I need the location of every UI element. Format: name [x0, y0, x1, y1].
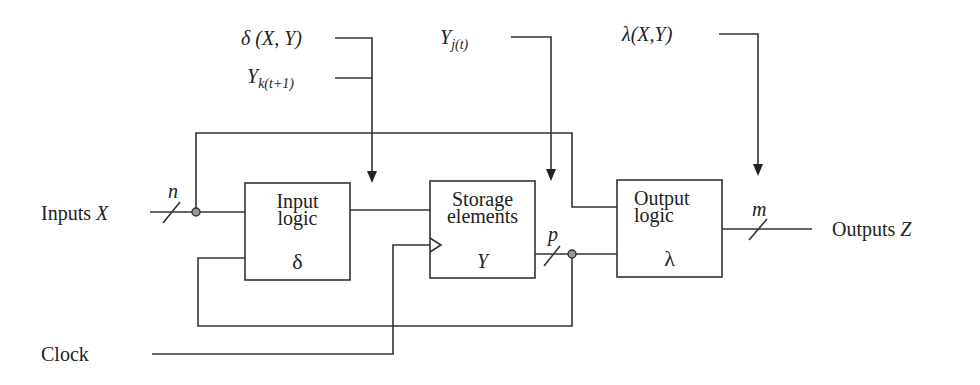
input-logic-title: Input logic — [245, 193, 350, 227]
input-junction-dot — [192, 208, 200, 216]
output-func-leader — [719, 34, 758, 165]
state-bus-width: p — [548, 224, 558, 244]
output-func-label: λ(X,Y) — [622, 24, 672, 44]
outputs-label: Outputs Z — [832, 219, 911, 239]
output-bus-width: m — [752, 199, 766, 219]
next-state-var-label: Yk(t+1) — [247, 66, 294, 94]
storage-elements-symbol: Y — [430, 253, 535, 270]
inputs-var: X — [96, 202, 108, 224]
inputs-label: Inputs X — [41, 203, 108, 223]
arrowhead-down-icon — [753, 164, 763, 176]
state-bus-width-slash — [544, 246, 560, 266]
present-state-leader — [511, 37, 551, 170]
input-bus-width: n — [168, 181, 178, 201]
output-logic-symbol: λ — [617, 250, 722, 267]
next-state-func-leader — [335, 38, 372, 172]
state-junction-dot — [568, 250, 576, 258]
output-logic-title: Output logic — [617, 190, 717, 224]
arrowhead-down-icon — [367, 171, 377, 183]
present-state-label: Yj(t) — [440, 27, 468, 55]
storage-elements-title: Storage elements — [430, 191, 535, 225]
clock-label: Clock — [41, 344, 89, 364]
clock-edge-triangle-icon — [430, 238, 441, 252]
next-state-func-label: δ (X, Y) — [241, 28, 302, 48]
input-logic-symbol: δ — [245, 253, 350, 270]
outputs-var: Z — [900, 218, 911, 240]
arrowhead-down-icon — [546, 169, 556, 181]
